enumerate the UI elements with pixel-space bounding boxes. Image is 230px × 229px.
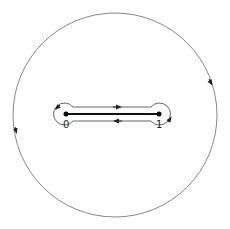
label-0: 0 [63, 119, 69, 130]
outer-arrow-left-icon [15, 127, 16, 131]
point-1 [157, 112, 162, 117]
point-0 [64, 112, 69, 117]
contour-diagram: 0 1 [0, 0, 230, 229]
label-1: 1 [156, 119, 162, 130]
